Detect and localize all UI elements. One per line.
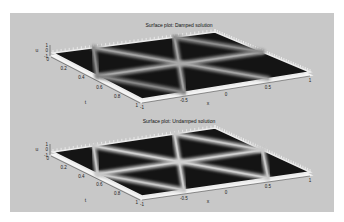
x-tick-label: 0 — [225, 92, 228, 97]
x-tick-label: -0.5 — [180, 196, 188, 201]
t-tick-label: 1 — [135, 200, 138, 205]
z-tick-label: -1 — [44, 153, 48, 158]
x-axis-label: x — [207, 100, 210, 106]
t-axis-label: t — [85, 99, 87, 105]
t-tick-label: 0.8 — [114, 94, 121, 99]
figure-canvas: Surface plot: Damped solution -1-0.500.5… — [10, 13, 334, 212]
t-tick-label: 1 — [135, 103, 138, 108]
x-tick-label: 1 — [309, 78, 312, 83]
figure-window: Surface plot: Damped solution -1-0.500.5… — [10, 13, 334, 212]
z-axis-label: u — [36, 146, 39, 152]
t-tick-label: 0.8 — [114, 191, 121, 196]
x-tick-label: -1 — [140, 105, 144, 110]
x-tick-label: 1 — [309, 178, 312, 183]
z-tick-label: 1 — [45, 142, 48, 147]
x-tick-label: 0.5 — [265, 184, 272, 189]
t-tick-label: 0.2 — [61, 66, 68, 71]
x-tick-label: -0.5 — [180, 98, 188, 103]
x-tick-label: 0 — [225, 190, 228, 195]
t-tick-label: 0.2 — [61, 165, 68, 170]
z-axis-label: u — [36, 47, 39, 53]
x-tick-label: 0.5 — [265, 85, 272, 90]
subplot-damped: Surface plot: Damped solution -1-0.500.5… — [36, 22, 312, 110]
plot-title: Surface plot: Undamped solution — [143, 118, 216, 124]
z-tick-label: 0 — [45, 48, 48, 53]
z-tick-label: -1 — [44, 54, 48, 59]
subplot-undamped: Surface plot: Undamped solution -1-0.500… — [36, 118, 312, 207]
t-tick-label: 0.4 — [78, 75, 85, 80]
t-tick-label: 0.6 — [96, 85, 103, 90]
t-tick-label: 0.6 — [96, 182, 103, 187]
x-tick-label: -1 — [140, 202, 144, 207]
z-tick-label: 0 — [45, 147, 48, 152]
z-tick-label: 1 — [45, 43, 48, 48]
t-axis-label: t — [85, 197, 87, 203]
t-tick-label: 0.4 — [78, 174, 85, 179]
plot-title: Surface plot: Damped solution — [146, 22, 213, 28]
x-axis-label: x — [207, 198, 210, 204]
